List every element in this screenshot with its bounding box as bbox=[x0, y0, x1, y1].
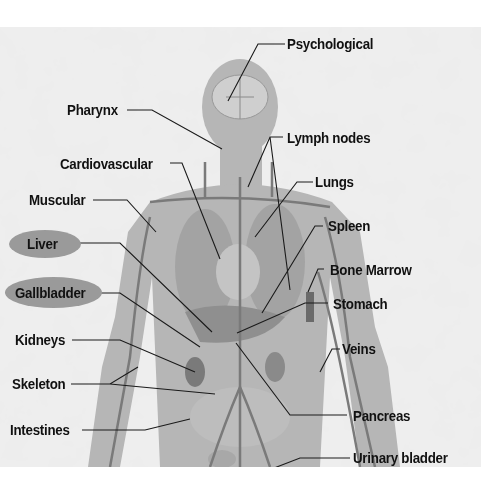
bone-marrow-organ bbox=[306, 292, 314, 322]
label-intestines: Intestines bbox=[10, 422, 70, 438]
anatomy-diagram: Psychological Pharynx Lymph nodes Cardio… bbox=[0, 27, 481, 467]
label-stomach: Stomach bbox=[333, 296, 387, 312]
label-skeleton: Skeleton bbox=[12, 376, 66, 392]
label-veins: Veins bbox=[342, 341, 376, 357]
label-bone-marrow: Bone Marrow bbox=[330, 262, 412, 278]
label-gallbladder: Gallbladder bbox=[15, 285, 86, 301]
kidney-right bbox=[265, 352, 285, 382]
label-pharynx: Pharynx bbox=[67, 102, 118, 118]
label-cardiovascular: Cardiovascular bbox=[60, 156, 153, 172]
label-spleen: Spleen bbox=[328, 218, 370, 234]
label-psychological: Psychological bbox=[287, 36, 373, 52]
label-liver: Liver bbox=[27, 236, 58, 252]
label-muscular: Muscular bbox=[29, 192, 85, 208]
label-lymph-nodes: Lymph nodes bbox=[287, 130, 370, 146]
heart bbox=[216, 244, 260, 300]
brain bbox=[212, 75, 268, 119]
label-lungs: Lungs bbox=[315, 174, 354, 190]
label-urinary-bladder: Urinary bladder bbox=[353, 450, 448, 466]
label-pancreas: Pancreas bbox=[353, 408, 410, 424]
label-kidneys: Kidneys bbox=[15, 332, 65, 348]
